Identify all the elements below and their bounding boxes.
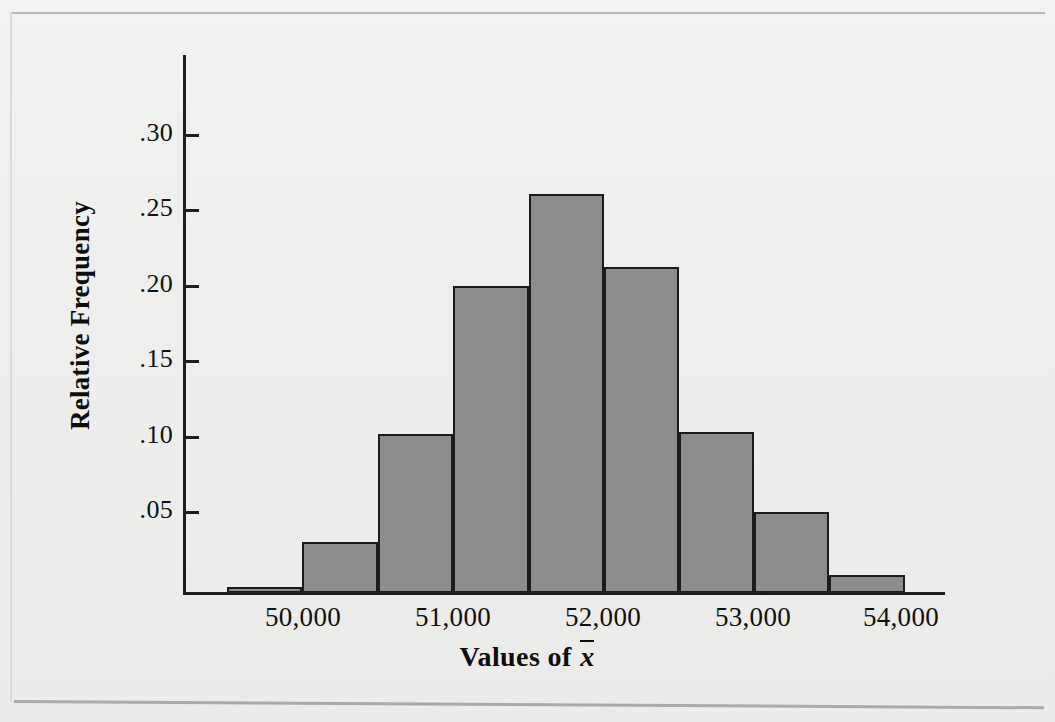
y-axis-title: Relative Frequency (65, 106, 96, 526)
y-tick-4 (186, 436, 199, 439)
x-axis-title: Values of x (0, 641, 1055, 673)
y-tick-label-2: .20 (103, 269, 173, 299)
y-tick-0 (186, 134, 199, 137)
x-tick-label-1: 51,000 (415, 602, 491, 633)
histogram-bar (529, 194, 604, 593)
histogram-plot: .30 .25 .20 .15 .10 .05 50,000 51,000 52… (0, 0, 1055, 722)
y-tick-label-3: .15 (103, 344, 173, 374)
x-tick-label-0: 50,000 (265, 602, 341, 633)
x-bar-symbol: x (579, 641, 595, 673)
y-tick-5 (186, 511, 199, 514)
x-tick-label-4: 54,000 (863, 602, 939, 633)
y-tick-label-0: .30 (103, 118, 173, 148)
scanned-page: .30 .25 .20 .15 .10 .05 50,000 51,000 52… (0, 0, 1055, 722)
y-tick-label-4: .10 (103, 420, 173, 450)
x-tick-label-2: 52,000 (565, 602, 641, 633)
histogram-bar (227, 587, 302, 593)
x-tick-label-3: 53,000 (715, 602, 791, 633)
histogram-bar (302, 542, 378, 593)
y-tick-3 (186, 360, 199, 363)
histogram-bar (754, 512, 829, 593)
histogram-bar (378, 434, 453, 593)
histogram-bar (604, 267, 679, 593)
y-tick-1 (186, 209, 199, 212)
histogram-bar (679, 432, 754, 593)
y-tick-2 (186, 285, 199, 288)
y-tick-label-5: .05 (103, 495, 173, 525)
histogram-bar (453, 286, 529, 593)
y-tick-label-1: .25 (103, 193, 173, 223)
histogram-bar (829, 575, 905, 593)
